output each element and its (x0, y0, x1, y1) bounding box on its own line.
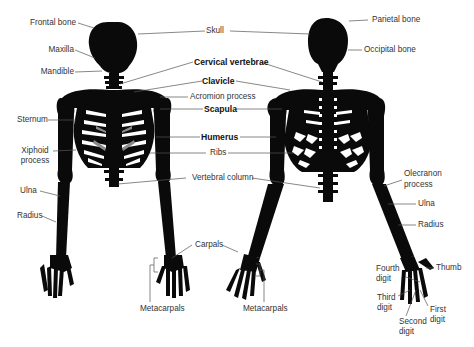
label-third-digit-line1: Third (377, 293, 396, 303)
label-skull: Skull (206, 26, 224, 36)
label-second-digit-line1: Second (399, 317, 427, 327)
label-fourth-digit-line1: Fourth (376, 264, 400, 274)
label-radius-anterior: Radius (17, 211, 43, 221)
label-thumb: Thumb (436, 263, 461, 273)
label-third-digit-line2: digit (377, 303, 392, 313)
label-maxilla: Maxilla (2, 45, 74, 55)
label-carpals: Carpals (195, 240, 223, 250)
label-olecranon-process-line2: process (404, 180, 433, 190)
label-xiphoid-process-line1: Xiphoid (18, 146, 52, 156)
label-frontal-bone: Frontal bone (2, 18, 76, 28)
label-vertebral-column: Vertebral column (192, 173, 253, 183)
label-ulna-anterior: Ulna (20, 186, 37, 196)
label-mandible: Mandible (2, 67, 74, 77)
label-ribs: Ribs (210, 148, 226, 158)
label-first-digit-line2: digit (430, 315, 445, 325)
label-olecranon-process-line1: Olecranon (404, 169, 442, 179)
label-occipital-bone: Occipital bone (364, 45, 416, 55)
label-xiphoid-process-line2: process (18, 156, 52, 166)
label-radius-posterior: Radius (418, 220, 444, 230)
label-humerus: Humerus (201, 132, 238, 142)
label-second-digit-line2: digit (399, 327, 414, 337)
label-first-digit-line1: First (430, 305, 446, 315)
label-acromion-process: Acromion process (190, 92, 256, 102)
label-fourth-digit-line2: digit (376, 274, 391, 284)
label-clavicle: Clavicle (202, 76, 235, 86)
label-cervical-vertebrae: Cervical vertebrae (194, 57, 269, 67)
label-scapula: Scapula (204, 104, 237, 114)
label-sternum: Sternum (17, 115, 48, 125)
label-ulna-posterior: Ulna (418, 199, 435, 209)
label-metacarpals-anterior: Metacarpals (140, 304, 185, 314)
label-parietal-bone: Parietal bone (372, 15, 420, 25)
label-metacarpals-posterior: Metacarpals (243, 304, 288, 314)
